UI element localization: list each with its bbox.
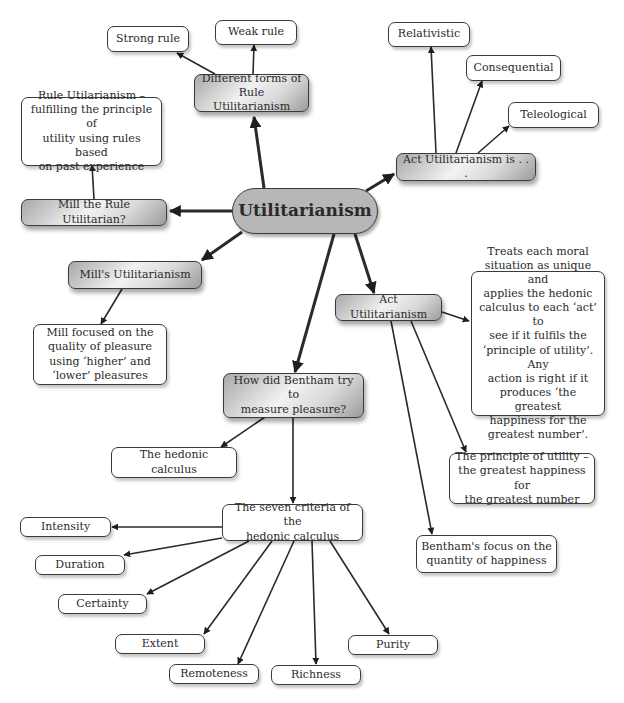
node-bentham-focus[interactable]: Bentham's focus on the quantity of happi…: [416, 535, 557, 573]
node-relativistic[interactable]: Relativistic: [388, 22, 470, 47]
edge-seven-to-extent: [204, 541, 272, 634]
node-act-util-is[interactable]: Act Utilitarianism is . . .: [396, 153, 536, 181]
edge-seven-to-purity: [330, 541, 389, 634]
node-teleological[interactable]: Teleological: [508, 102, 599, 128]
node-act-util-definition[interactable]: Treats each moral situation as unique an…: [471, 271, 605, 416]
edge-central-to-act-util: [355, 234, 374, 293]
node-principle-of-utility[interactable]: The principle of utility – the greatest …: [449, 453, 595, 504]
node-different-forms[interactable]: Different forms of Rule Utilitarianism: [194, 74, 309, 112]
node-mill-rule-utilitarian[interactable]: Mill the Rule Utilitarian?: [21, 199, 167, 226]
edge-act-is-to-consequential: [456, 81, 482, 153]
node-bentham-measure[interactable]: How did Bentham try to measure pleasure?: [223, 373, 364, 418]
edge-mills-util-to-focus: [101, 289, 122, 324]
edge-act-is-to-teleological: [478, 126, 509, 153]
edge-act-is-to-relativistic: [431, 47, 436, 153]
edge-forms-to-weak: [253, 45, 254, 74]
node-purity[interactable]: Purity: [348, 635, 438, 655]
node-intensity[interactable]: Intensity: [20, 517, 111, 537]
node-mill-focus[interactable]: Mill focused on the quality of pleasure …: [33, 324, 167, 385]
edge-central-to-bentham-measure: [295, 234, 334, 372]
node-certainty[interactable]: Certainty: [58, 594, 147, 614]
node-extent[interactable]: Extent: [115, 634, 205, 654]
node-strong-rule[interactable]: Strong rule: [107, 26, 189, 52]
edge-act-util-to-principle: [411, 321, 466, 452]
node-consequential[interactable]: Consequential: [466, 55, 561, 81]
node-duration[interactable]: Duration: [35, 555, 125, 575]
node-remoteness[interactable]: Remoteness: [169, 664, 259, 684]
node-seven-criteria[interactable]: The seven criteria of the hedonic calcul…: [222, 504, 363, 541]
node-hedonic-calculus[interactable]: The hedonic calculus: [111, 447, 237, 478]
edge-central-to-different-forms: [254, 117, 264, 188]
node-rule-util-definition[interactable]: Rule Utilarianism – fulfilling the princ…: [21, 97, 162, 166]
edge-central-to-act-util-is: [366, 174, 394, 191]
node-mills-utilitarianism[interactable]: Mill's Utilitarianism: [68, 261, 202, 289]
edge-measure-to-hedonic: [221, 417, 265, 447]
node-richness[interactable]: Richness: [271, 665, 361, 685]
edge-seven-to-richness: [312, 541, 316, 664]
edge-seven-to-duration: [124, 538, 222, 555]
node-weak-rule[interactable]: Weak rule: [215, 20, 297, 45]
edge-act-util-to-bentham-focus: [391, 321, 432, 534]
edge-forms-to-strong: [177, 53, 215, 74]
node-act-utilitarianism[interactable]: Act Utilitarianism: [335, 294, 442, 321]
edge-act-util-to-def: [442, 312, 469, 321]
central-node-utilitarianism[interactable]: Utilitarianism: [232, 188, 378, 234]
edge-central-to-mills-util: [202, 232, 242, 260]
edge-seven-to-remoteness: [238, 541, 294, 664]
